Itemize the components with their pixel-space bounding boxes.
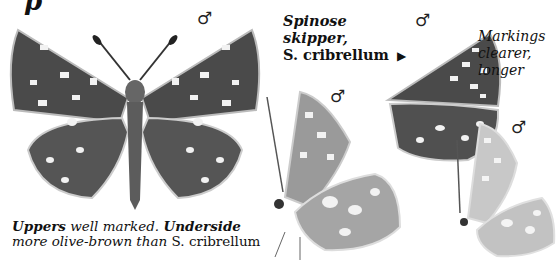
bottom-caption: Uppers well marked. Underside more olive…: [12, 219, 260, 249]
markings-note-line3: longer: [478, 62, 546, 79]
male-symbol-cribrellum-upper: ♂: [415, 10, 430, 30]
butterfly-upperside-icon: [0, 0, 270, 215]
caption-line1: Uppers well marked. Underside: [12, 219, 260, 234]
butterfly-underside-icon: [255, 82, 415, 262]
markings-note-line1: Markings: [478, 28, 546, 45]
male-symbol-upperside: ♂: [197, 8, 212, 28]
species-common-name-line1: Spinose: [283, 12, 406, 29]
scientific-name-text: S. cribrellum: [283, 46, 389, 63]
underside-middle-illustration: [255, 82, 415, 262]
underside-right-illustration: [452, 118, 556, 262]
caption-uppers: Uppers: [12, 218, 66, 234]
caption-underside: Underside: [163, 218, 241, 234]
caption-uppers-text: well marked.: [66, 218, 163, 234]
markings-note: Markings clearer, longer: [478, 28, 546, 79]
markings-note-line2: clearer,: [478, 45, 546, 62]
caption-line2: more olive-brown than S. cribrellum: [12, 234, 260, 249]
caption-underside-text: more olive-brown than: [12, 233, 167, 249]
caption-species-ref: S. cribrellum: [167, 233, 260, 249]
butterfly-upperside-illustration: [0, 0, 270, 215]
butterfly-underside-right-icon: [452, 118, 556, 262]
